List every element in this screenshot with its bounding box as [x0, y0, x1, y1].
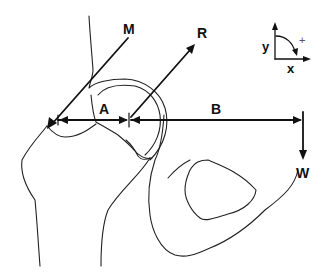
coordinate-axes: y x + [262, 22, 311, 76]
obturator-foramen [185, 160, 256, 220]
y-axis-arrowhead [272, 22, 278, 30]
femur-medial-outline [101, 158, 150, 266]
label-W: W [296, 165, 310, 181]
rotation-arrowhead [292, 48, 298, 56]
muscle-force-vector [52, 38, 128, 124]
weight-arrowhead [299, 150, 307, 160]
x-axis-arrowhead [303, 56, 311, 62]
lesser-trochanter [126, 140, 150, 159]
trochanter-outline [47, 124, 96, 137]
rotation-sign: + [299, 34, 305, 46]
hip-free-body-diagram: M R A B W y x + [0, 0, 327, 276]
femur-lateral-outline [22, 126, 47, 266]
ischium-outline [149, 115, 298, 256]
moment-arm-A-arrow-right [119, 116, 128, 124]
label-A: A [99, 101, 109, 117]
label-R: R [197, 25, 207, 41]
reaction-force-vector [131, 50, 190, 117]
label-y: y [262, 39, 270, 54]
moment-arm-A-arrow-left [59, 116, 68, 124]
moment-arm-B-arrow-right [293, 116, 302, 124]
obturator-spur [168, 160, 190, 178]
label-B: B [211, 101, 221, 117]
rotation-arc [276, 36, 295, 52]
label-x: x [287, 61, 295, 76]
moment-arm-B-arrow-left [131, 116, 140, 124]
label-M: M [123, 21, 135, 37]
